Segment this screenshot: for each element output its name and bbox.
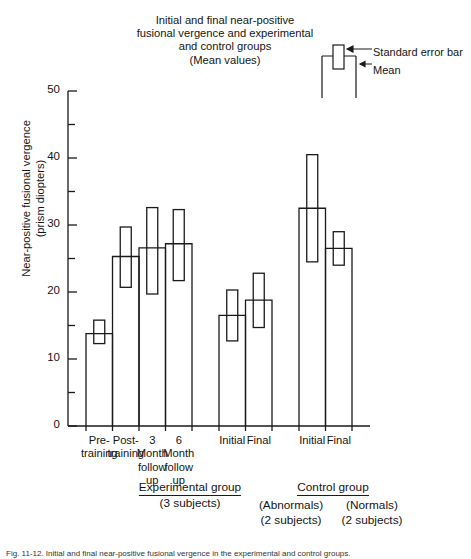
y-axis-tick-label: 20 <box>34 284 60 296</box>
bar-outline[interactable] <box>326 248 353 426</box>
group-label-experimental-name: Experimental group <box>139 480 241 496</box>
error-bar-box <box>120 227 131 287</box>
group-label-normals-name: (Normals) <box>334 498 410 513</box>
x-axis-tick-label: Final <box>305 434 373 447</box>
group-label-experimental: Experimental group (3 subjects) <box>110 480 270 510</box>
y-axis-tick-label: 0 <box>34 418 60 430</box>
y-axis-tick-label: 40 <box>34 150 60 162</box>
x-axis-tick-label-line: Month <box>145 447 213 460</box>
bar-outline[interactable] <box>246 300 273 426</box>
plot-area <box>0 0 471 559</box>
x-axis-tick-label-line: Final <box>305 434 373 447</box>
group-label-normals-subjects: (2 subjects) <box>334 513 410 528</box>
bar-outline[interactable] <box>166 244 193 426</box>
group-label-abnormals-name: (Abnormals) <box>253 498 329 513</box>
figure-container: Initial and final near-positive fusional… <box>0 0 471 559</box>
bar-outline[interactable] <box>219 315 246 426</box>
x-axis-tick-label-line: follow <box>145 461 213 474</box>
group-label-abnormals-subjects: (2 subjects) <box>253 513 329 528</box>
bar-outline[interactable] <box>113 256 140 426</box>
group-label-experimental-subjects: (3 subjects) <box>110 496 270 511</box>
error-bar-box <box>94 320 105 343</box>
error-bar-box <box>147 208 158 294</box>
bar-outline[interactable] <box>299 208 326 426</box>
figure-caption: Fig. 11-12. Initial and final near-posit… <box>6 549 466 559</box>
y-axis-tick-label: 30 <box>34 217 60 229</box>
group-label-control: Control group <box>258 480 408 496</box>
bar-outline[interactable] <box>139 248 166 426</box>
group-label-control-abnormals: (Abnormals) (2 subjects) <box>253 498 329 527</box>
error-bar-box <box>173 210 184 281</box>
y-axis-tick-label: 10 <box>34 351 60 363</box>
y-axis-tick-label: 50 <box>34 83 60 95</box>
bar-outline[interactable] <box>86 334 113 426</box>
group-label-control-name: Control group <box>297 480 368 496</box>
group-label-control-normals: (Normals) (2 subjects) <box>334 498 410 527</box>
